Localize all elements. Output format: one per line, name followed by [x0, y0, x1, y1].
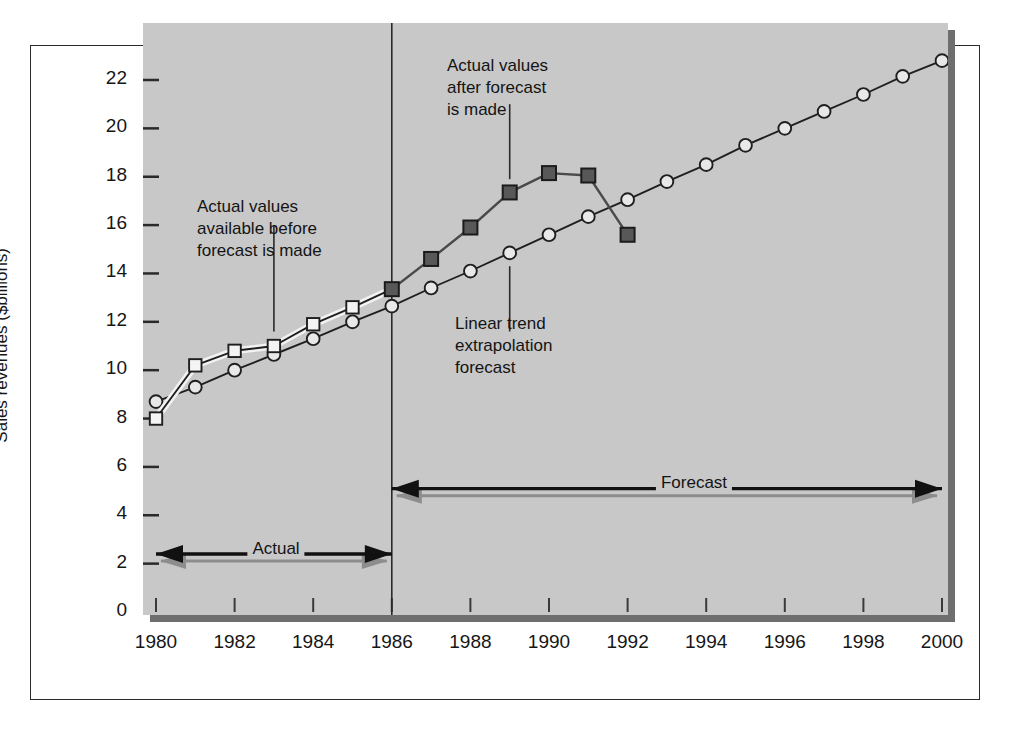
- data-point-open-circle: [543, 228, 556, 241]
- data-point-open-circle: [425, 282, 438, 295]
- x-tick-label: 1992: [593, 631, 663, 653]
- data-point-open-circle: [582, 210, 595, 223]
- data-point-open-circle: [307, 332, 320, 345]
- y-tick-label: 6: [85, 454, 127, 476]
- span-label-forecast-span: Forecast: [656, 473, 732, 493]
- x-tick-label: 1988: [435, 631, 505, 653]
- x-tick-label: 1982: [200, 631, 270, 653]
- span-label-actual-span: Actual: [247, 539, 304, 559]
- y-tick-label: 22: [85, 67, 127, 89]
- data-point-filled-square: [503, 185, 517, 199]
- data-point-open-circle: [150, 395, 163, 408]
- x-tick-label: 1984: [278, 631, 348, 653]
- data-point-open-square: [268, 340, 280, 352]
- data-point-open-square: [346, 301, 358, 313]
- data-point-open-circle: [385, 300, 398, 313]
- data-point-open-circle: [464, 265, 477, 278]
- y-tick-label: 0: [85, 599, 127, 621]
- data-point-open-circle: [189, 381, 202, 394]
- annotation-actual-after: Actual values after forecast is made: [447, 55, 548, 120]
- data-point-open-circle: [857, 88, 870, 101]
- y-axis-label: Sales revenues ($billions): [0, 248, 12, 443]
- data-point-open-circle: [346, 315, 359, 328]
- data-point-open-circle: [661, 175, 674, 188]
- data-point-filled-square: [581, 169, 595, 183]
- y-tick-label: 18: [85, 164, 127, 186]
- data-point-filled-square: [385, 282, 399, 296]
- x-tick-label: 1986: [357, 631, 427, 653]
- y-tick-label: 14: [85, 260, 127, 282]
- data-point-filled-square: [424, 252, 438, 266]
- data-point-open-circle: [818, 105, 831, 118]
- y-tick-label: 12: [85, 309, 127, 331]
- data-point-open-square: [228, 345, 240, 357]
- data-point-open-circle: [503, 247, 516, 260]
- data-point-filled-square: [542, 166, 556, 180]
- data-point-open-circle: [700, 158, 713, 171]
- x-tick-label: 1994: [671, 631, 741, 653]
- data-point-open-circle: [739, 139, 752, 152]
- data-point-open-circle: [896, 70, 909, 83]
- y-tick-label: 16: [85, 212, 127, 234]
- annotation-linear-trend: Linear trend extrapolation forecast: [455, 313, 552, 378]
- data-point-open-square: [150, 412, 162, 424]
- data-point-filled-square: [621, 228, 635, 242]
- data-point-open-square: [189, 359, 201, 371]
- data-point-open-circle: [778, 122, 791, 135]
- x-tick-label: 1980: [121, 631, 191, 653]
- annotation-actual-before: Actual values available before forecast …: [197, 196, 322, 261]
- y-tick-label: 4: [85, 502, 127, 524]
- y-tick-label: 2: [85, 551, 127, 573]
- data-point-open-circle: [621, 193, 634, 206]
- y-tick-label: 20: [85, 115, 127, 137]
- y-tick-label: 8: [85, 406, 127, 428]
- x-tick-label: 1996: [750, 631, 820, 653]
- figure-canvas: Sales revenues ($billions) 0246810121416…: [0, 0, 1031, 748]
- x-tick-label: 2000: [907, 631, 977, 653]
- y-tick-label: 10: [85, 357, 127, 379]
- x-tick-label: 1998: [828, 631, 898, 653]
- data-point-open-circle: [228, 364, 241, 377]
- data-point-open-square: [307, 318, 319, 330]
- data-point-filled-square: [463, 221, 477, 235]
- x-tick-label: 1990: [514, 631, 584, 653]
- data-point-open-circle: [936, 54, 948, 67]
